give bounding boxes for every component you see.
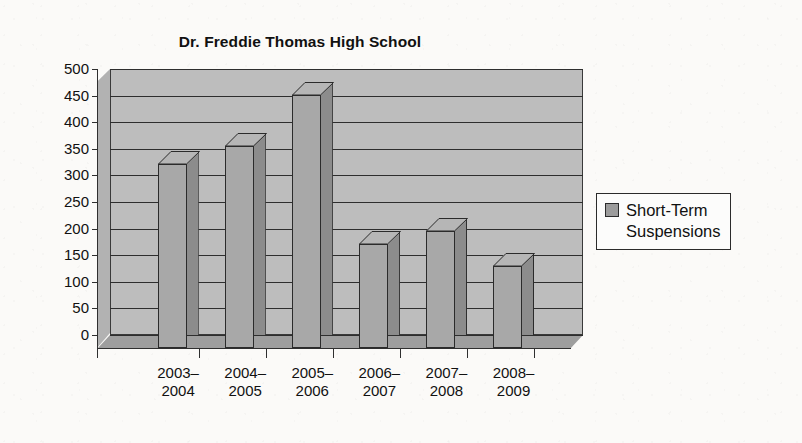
- x-axis-tick: [199, 349, 200, 358]
- y-axis-label: 0: [29, 327, 89, 342]
- y-axis-label: 100: [29, 274, 89, 289]
- gridline: [110, 69, 583, 70]
- bar-front-face: [292, 95, 321, 348]
- chart-legend: Short-Term Suspensions: [596, 193, 731, 250]
- bar: [225, 146, 254, 348]
- x-axis-label-line: 2009: [474, 382, 554, 400]
- y-axis-label: 500: [29, 61, 89, 76]
- x-axis-label: 2008–2009: [474, 364, 554, 401]
- plot-area: 2003–20042004–20052005–20062006–20072007…: [97, 82, 570, 348]
- bar: [359, 244, 388, 348]
- y-axis-tick: [92, 122, 98, 123]
- y-axis-label: 400: [29, 114, 89, 129]
- bar-side-face: [253, 133, 266, 335]
- bar: [158, 164, 187, 348]
- legend-swatch-icon: [605, 203, 619, 217]
- y-axis-tick: [92, 96, 98, 97]
- x-axis-tick: [97, 349, 98, 358]
- y-axis-tick: [92, 69, 98, 70]
- chart-floor-line: [97, 348, 571, 349]
- bar: [493, 266, 522, 348]
- bar-front-face: [359, 244, 388, 348]
- y-axis-tick: [92, 229, 98, 230]
- y-axis-tick: [92, 335, 98, 336]
- gridline: [110, 149, 583, 150]
- x-axis-tick: [534, 349, 535, 358]
- bar-front-face: [493, 266, 522, 348]
- bar-side-face: [387, 231, 400, 335]
- bar-side-face: [521, 253, 534, 335]
- y-axis-tick: [92, 175, 98, 176]
- legend-label: Short-Term Suspensions: [626, 200, 720, 242]
- x-axis-tick: [266, 349, 267, 358]
- y-axis-tick: [92, 255, 98, 256]
- x-axis-tick: [400, 349, 401, 358]
- y-axis-label: 250: [29, 194, 89, 209]
- y-axis-label: 350: [29, 141, 89, 156]
- y-axis-tick: [92, 308, 98, 309]
- x-axis-tick: [467, 349, 468, 358]
- bar-side-face: [454, 218, 467, 335]
- bar-side-face: [186, 151, 199, 335]
- y-axis-label: 450: [29, 88, 89, 103]
- bar-front-face: [225, 146, 254, 348]
- y-axis-label: 200: [29, 221, 89, 236]
- x-axis-tick: [333, 349, 334, 358]
- chart-title: Dr. Freddie Thomas High School: [0, 33, 600, 51]
- y-axis-tick: [92, 282, 98, 283]
- y-axis-tick: [92, 202, 98, 203]
- y-axis-tick: [92, 149, 98, 150]
- chart-side-wall: [97, 69, 110, 348]
- y-axis-label: 300: [29, 167, 89, 182]
- bar-side-face: [320, 82, 333, 335]
- gridline: [110, 96, 583, 97]
- bar-front-face: [158, 164, 187, 348]
- bar: [426, 231, 455, 348]
- bar-front-face: [426, 231, 455, 348]
- y-axis-line: [97, 69, 98, 349]
- bar: [292, 95, 321, 348]
- gridline: [110, 122, 583, 123]
- y-axis-label: 150: [29, 247, 89, 262]
- x-axis-label-line: 2008–: [474, 364, 554, 382]
- y-axis-label: 50: [29, 300, 89, 315]
